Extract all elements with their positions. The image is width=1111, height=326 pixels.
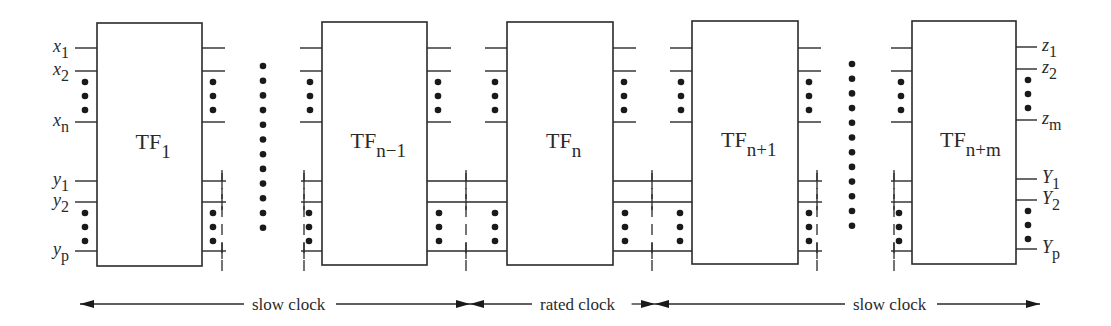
ellipsis-dot <box>306 224 313 231</box>
ellipsis-dot <box>436 210 443 217</box>
ellipsis-dot <box>260 92 267 99</box>
ellipsis-dot <box>1025 222 1032 229</box>
ellipsis-dot <box>677 210 684 217</box>
ellipsis-dot <box>260 136 267 143</box>
ellipsis-dot <box>492 79 499 86</box>
ellipsis-dot <box>260 180 267 187</box>
arrow-right-icon <box>456 300 470 308</box>
ellipsis-dot <box>82 93 89 100</box>
ellipsis-dot <box>622 238 629 245</box>
ellipsis-dot <box>678 93 685 100</box>
ellipsis-dot <box>806 238 813 245</box>
ellipsis-dot <box>621 79 628 86</box>
ellipsis-dot <box>436 238 443 245</box>
ellipsis-dot <box>898 93 905 100</box>
arrow-left-icon <box>470 300 484 308</box>
ellipsis-dot <box>621 107 628 114</box>
ellipsis-dot <box>849 149 856 156</box>
ellipsis-dot <box>82 224 89 231</box>
input-label-yp: yp <box>51 239 69 265</box>
ellipsis-dot <box>806 79 813 86</box>
ellipsis-dot <box>492 238 499 245</box>
ellipsis-dot <box>849 193 856 200</box>
ellipsis-dot <box>677 238 684 245</box>
ellipsis-dot <box>306 210 313 217</box>
ellipsis-dot <box>436 224 443 231</box>
ellipsis-dot <box>1025 91 1032 98</box>
ellipsis-dot <box>435 79 442 86</box>
ellipsis-dot <box>849 164 856 171</box>
input-label-x1: x1 <box>52 36 69 61</box>
ellipsis-dot <box>307 107 314 114</box>
ellipsis-dot <box>82 107 89 114</box>
output-label-Yp: Yp <box>1042 237 1060 263</box>
arrow-left-icon <box>80 300 94 308</box>
ellipsis-dot <box>260 166 267 173</box>
ellipsis-dot <box>849 134 856 141</box>
ellipsis-dot <box>849 178 856 185</box>
ellipsis-dot <box>260 107 267 114</box>
clock-region-label: slow clock <box>853 295 927 314</box>
ellipsis-dot <box>622 224 629 231</box>
arrow-left-icon <box>655 300 669 308</box>
ellipsis-dot <box>492 93 499 100</box>
ellipsis-dot <box>435 93 442 100</box>
input-label-x2: x2 <box>52 59 69 84</box>
ellipsis-dot <box>1025 105 1032 112</box>
ellipsis-dot <box>260 63 267 70</box>
output-label-z2: z2 <box>1041 57 1057 82</box>
ellipsis-dot <box>896 224 903 231</box>
ellipsis-dot <box>210 238 217 245</box>
ellipsis-dot <box>898 79 905 86</box>
ellipsis-dot <box>806 107 813 114</box>
ellipsis-dot <box>260 195 267 202</box>
ellipsis-dot <box>849 75 856 82</box>
ellipsis-dot <box>210 107 217 114</box>
ellipsis-dot <box>82 79 89 86</box>
ellipsis-dot <box>492 107 499 114</box>
ellipsis-dot <box>492 210 499 217</box>
ellipsis-dot <box>260 122 267 129</box>
input-label-xn: xn <box>52 110 69 135</box>
ellipsis-dot <box>898 107 905 114</box>
arrow-right-icon <box>641 300 655 308</box>
ellipsis-dot <box>1025 236 1032 243</box>
ellipsis-dot <box>849 222 856 229</box>
ellipsis-dot <box>210 79 217 86</box>
ellipsis-dot <box>1025 77 1032 84</box>
ellipsis-dot <box>896 238 903 245</box>
ellipsis-dot <box>678 79 685 86</box>
ellipsis-dot <box>210 93 217 100</box>
ellipsis-dot <box>260 151 267 158</box>
ellipsis-dot <box>678 107 685 114</box>
ellipsis-dot <box>492 224 499 231</box>
ellipsis-dot <box>260 210 267 217</box>
ellipsis-dot <box>260 77 267 84</box>
ellipsis-dot <box>260 224 267 231</box>
ellipsis-dot <box>306 238 313 245</box>
arrow-right-icon <box>1026 300 1040 308</box>
ellipsis-dot <box>806 93 813 100</box>
output-label-zm: zm <box>1041 108 1062 133</box>
ellipsis-dot <box>849 90 856 97</box>
ellipsis-dot <box>806 224 813 231</box>
ellipsis-dot <box>849 120 856 127</box>
ellipsis-dot <box>896 210 903 217</box>
ellipsis-dot <box>307 79 314 86</box>
clock-region-label: rated clock <box>540 295 616 314</box>
ellipsis-dot <box>622 210 629 217</box>
ellipsis-dot <box>677 224 684 231</box>
ellipsis-dot <box>82 238 89 245</box>
clock-region-arrows: slow clockrated clockslow clock <box>80 295 1040 314</box>
ellipsis-dot <box>1025 208 1032 215</box>
time-frame-diagram: TF1TFn−1TFnTFn+1TFn+mx1x2xny1y2ypz1z2zmY… <box>0 0 1111 326</box>
ellipsis-dot <box>621 93 628 100</box>
clock-region-label: slow clock <box>252 295 326 314</box>
ellipsis-dot <box>210 210 217 217</box>
ellipsis-dot <box>849 208 856 215</box>
ellipsis-dot <box>849 105 856 112</box>
ellipsis-dot <box>307 93 314 100</box>
ellipsis-dot <box>210 224 217 231</box>
ellipsis-dot <box>435 107 442 114</box>
ellipsis-dot <box>806 210 813 217</box>
